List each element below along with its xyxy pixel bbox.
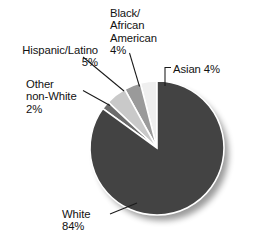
- slice-label-hispanic-latino: Hispanic/Latino 5%: [8, 44, 98, 69]
- slice-label-white: White 84%: [62, 208, 124, 233]
- pie-slices: [90, 81, 224, 215]
- pie-chart: Black/ African American 4% Hispanic/Lati…: [0, 0, 254, 247]
- slice-label-other-non-white: Other non-White 2%: [26, 78, 98, 115]
- slice-label-black-african-american: Black/ African American 4%: [110, 7, 172, 57]
- slice-label-asian: Asian 4%: [173, 63, 247, 75]
- leader-line-black-african-american: [130, 53, 140, 87]
